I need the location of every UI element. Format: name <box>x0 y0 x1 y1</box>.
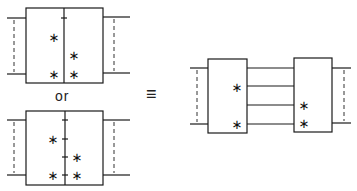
equivalence-symbol: ≡ <box>146 84 157 105</box>
tensor-network-diagram: ∗ ∗ ∗ ∗ ∗ ∗ ∗ ∗ ∗ ∗ <box>0 0 357 191</box>
svg-text:∗: ∗ <box>299 98 310 113</box>
svg-text:∗: ∗ <box>69 48 80 63</box>
svg-text:∗: ∗ <box>232 80 243 95</box>
right-diagram: ∗ ∗ ∗ ∗ <box>190 58 351 133</box>
svg-text:∗: ∗ <box>299 116 310 131</box>
svg-text:∗: ∗ <box>48 132 59 147</box>
svg-text:∗: ∗ <box>72 168 83 183</box>
or-label: or <box>55 88 69 104</box>
svg-text:∗: ∗ <box>232 117 243 132</box>
svg-text:∗: ∗ <box>49 67 60 82</box>
svg-text:∗: ∗ <box>48 168 59 183</box>
svg-text:∗: ∗ <box>72 150 83 165</box>
svg-text:∗: ∗ <box>69 67 80 82</box>
bottom-left-diagram: ∗ ∗ ∗ ∗ <box>7 111 130 185</box>
svg-text:∗: ∗ <box>49 30 60 45</box>
top-left-diagram: ∗ ∗ ∗ ∗ <box>7 8 130 83</box>
